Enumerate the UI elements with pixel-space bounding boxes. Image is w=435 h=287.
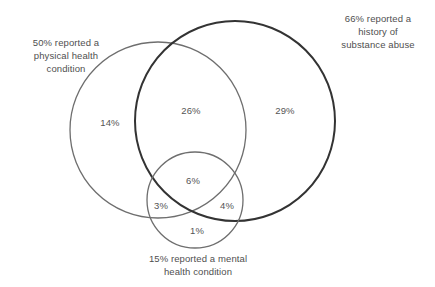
region-value-mental-only: 1% <box>190 225 204 236</box>
region-value-all-three: 6% <box>186 175 200 186</box>
region-value-physical-substance: 26% <box>181 105 200 116</box>
caption-mental-health: 15% reported a mental health condition <box>112 252 284 278</box>
region-value-physical-only: 14% <box>100 117 119 128</box>
region-value-physical-mental: 3% <box>154 200 168 211</box>
caption-physical-health: 50% reported a physical health condition <box>6 36 126 75</box>
venn-diagram-canvas: 50% reported a physical health condition… <box>0 0 435 287</box>
region-value-substance-mental: 4% <box>220 200 234 211</box>
circle-substance-abuse <box>135 21 335 221</box>
region-value-substance-only: 29% <box>275 105 294 116</box>
caption-substance-abuse: 66% reported a history of substance abus… <box>324 12 432 51</box>
